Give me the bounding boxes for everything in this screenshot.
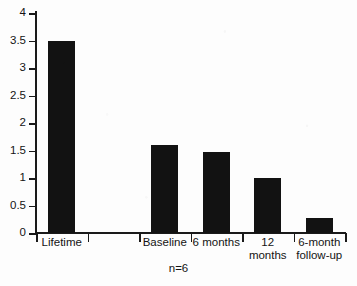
- x-axis-category-label: 12 months: [242, 236, 294, 261]
- x-axis-category-label: Baseline: [139, 236, 191, 249]
- plot-area: 00.511.522.533.54: [36, 13, 345, 233]
- y-axis-tick-label: 2: [20, 117, 26, 129]
- bar-chart: 00.511.522.533.54 LifetimeBaseline6 mont…: [0, 0, 357, 286]
- y-axis-tick-label: 0: [20, 227, 26, 239]
- y-axis-tick: [29, 41, 36, 43]
- x-axis-category-label: 6-month follow-up: [294, 236, 346, 261]
- x-axis-separator-tick: [88, 233, 90, 242]
- y-axis-tick: [29, 123, 36, 125]
- y-axis-tick-label: 2.5: [10, 90, 26, 102]
- y-axis-tick: [29, 13, 36, 15]
- y-axis-tick: [29, 96, 36, 98]
- y-axis-tick: [29, 233, 36, 235]
- y-axis-tick: [29, 151, 36, 153]
- y-axis-tick: [29, 178, 36, 180]
- y-axis-tick-label: 1: [20, 172, 26, 184]
- y-axis-tick: [29, 206, 36, 208]
- sample-size-caption: n=6: [0, 262, 357, 274]
- y-axis-tick-label: 3.5: [10, 35, 26, 47]
- y-axis-tick-label: 0.5: [10, 200, 26, 212]
- x-axis-category-label: Lifetime: [36, 236, 88, 249]
- bar: [254, 178, 281, 233]
- y-axis-tick-label: 4: [20, 7, 26, 19]
- y-axis-tick-label: 3: [20, 62, 26, 74]
- y-axis-tick-label: 1.5: [10, 145, 26, 157]
- bar: [151, 145, 178, 233]
- bar: [306, 218, 333, 233]
- x-axis-separator-tick: [345, 233, 347, 242]
- bar: [203, 152, 230, 233]
- bar: [48, 41, 75, 234]
- x-axis-category-label: 6 months: [191, 236, 243, 249]
- y-axis-tick: [29, 68, 36, 70]
